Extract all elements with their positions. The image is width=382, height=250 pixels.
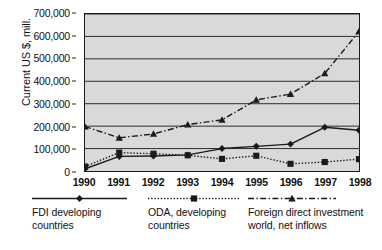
x-axis-tick-label: 1990 (73, 176, 96, 188)
data-point-square (322, 159, 328, 165)
chart-legend: FDI developingcountriesODA, developingco… (0, 193, 382, 250)
x-axis-tick-label: 1993 (176, 176, 199, 188)
x-axis-tick-label: 1998 (349, 176, 372, 188)
y-axis-tick-label: 600,000 (33, 31, 70, 41)
legend-label: ODA, developingcountries (148, 206, 226, 231)
legend-label-line1: FDI developing (32, 206, 101, 219)
y-axis-tick-label: 500,000 (33, 53, 70, 63)
y-axis-tick-label: 0 (64, 167, 70, 177)
data-point-diamond (356, 127, 359, 134)
y-axis-tick-labels: 0100,000200,000300,000400,000500,000600,… (14, 8, 76, 178)
x-axis-tick-label: 1994 (211, 176, 234, 188)
y-axis-tick-mark (72, 172, 76, 173)
data-point-square (356, 156, 359, 162)
legend-label: Foreign direct investmentworld, net infl… (248, 206, 363, 231)
data-point-diamond (219, 145, 226, 152)
y-axis-tick-mark (72, 13, 76, 14)
legend-label-line1: ODA, developing (148, 206, 226, 219)
legend-label-line2: world, net inflows (248, 219, 363, 232)
plot-svg (85, 14, 359, 171)
data-point-triangle (218, 116, 225, 123)
legend-label-line1: Foreign direct investment (248, 206, 363, 219)
data-point-square (85, 163, 88, 169)
y-axis-tick-mark (72, 35, 76, 36)
y-axis-tick-mark (72, 126, 76, 127)
legend-swatch (248, 193, 336, 204)
y-axis-tick-label: 300,000 (33, 99, 70, 109)
x-axis-tick-label: 1991 (107, 176, 130, 188)
data-point-square (191, 195, 197, 201)
data-point-triangle (287, 90, 294, 97)
data-point-square (253, 153, 259, 159)
x-axis-tick-label: 1997 (314, 176, 337, 188)
x-axis-tick-label: 1992 (142, 176, 165, 188)
x-axis-tick-label: 1995 (245, 176, 268, 188)
x-axis-tick-label: 1996 (280, 176, 303, 188)
data-point-diamond (321, 124, 328, 131)
data-point-triangle (253, 96, 260, 103)
data-point-square (219, 156, 225, 162)
x-axis-tick-labels: 199019911992199319941995199619971998 (84, 176, 360, 192)
legend-swatch (32, 193, 127, 204)
data-point-square (150, 151, 156, 157)
y-axis-tick-mark (72, 58, 76, 59)
legend-swatch (148, 193, 240, 204)
y-axis-tick-label: 200,000 (33, 122, 70, 132)
data-point-diamond (76, 195, 83, 202)
chart-container: Current US $, mill. 0100,000200,000300,0… (0, 0, 382, 250)
y-axis-tick-mark (72, 103, 76, 104)
legend-label-line2: countries (32, 219, 101, 232)
data-point-square (287, 161, 293, 167)
legend-label-line2: countries (148, 219, 226, 232)
data-point-square (116, 150, 122, 156)
y-axis-tick-label: 100,000 (33, 144, 70, 154)
data-point-triangle (184, 121, 191, 128)
data-point-diamond (287, 141, 294, 148)
data-point-triangle (355, 28, 359, 35)
plot-area (84, 13, 360, 172)
data-point-triangle (150, 130, 157, 137)
data-point-square (185, 152, 191, 158)
y-axis-tick-label: 700,000 (33, 8, 70, 18)
y-axis-tick-mark (72, 81, 76, 82)
y-axis-tick-mark (72, 149, 76, 150)
legend-label: FDI developingcountries (32, 206, 101, 231)
y-axis-tick-label: 400,000 (33, 76, 70, 86)
